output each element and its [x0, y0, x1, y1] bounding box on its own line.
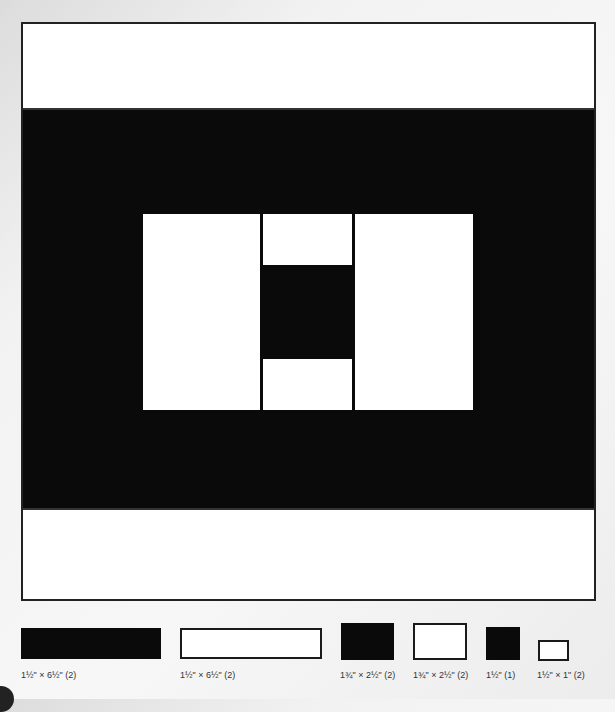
quilt-block-diagram [21, 22, 596, 601]
legend-piece-black-rect [341, 623, 394, 660]
legend-piece-black-square [486, 627, 520, 660]
center-left-white-rect [143, 214, 260, 410]
legend-piece-white-small [538, 640, 569, 661]
center-column-top-white [263, 214, 352, 265]
legend-label-black-long: 1½" × 6½" (2) [21, 670, 76, 680]
legend-label-black-square: 1½" (1) [486, 670, 515, 680]
legend-piece-white-rect [413, 623, 467, 660]
legend-label-white-small: 1½" × 1" (2) [537, 670, 585, 680]
legend-label-white-rect: 1¾" × 2½" (2) [413, 670, 468, 680]
legend-label-black-rect: 1¾" × 2½" (2) [340, 670, 395, 680]
center-column-bottom-white [263, 359, 352, 410]
center-unit [141, 212, 475, 412]
bottom-white-band [23, 508, 594, 599]
center-right-white-rect [355, 214, 473, 410]
top-white-band [23, 24, 594, 110]
legend-piece-white-long [180, 628, 322, 659]
legend-piece-black-long [21, 628, 161, 659]
center-column-black-square [263, 267, 352, 357]
legend-label-white-long: 1½" × 6½" (2) [180, 670, 235, 680]
page-corner-badge [0, 686, 14, 712]
